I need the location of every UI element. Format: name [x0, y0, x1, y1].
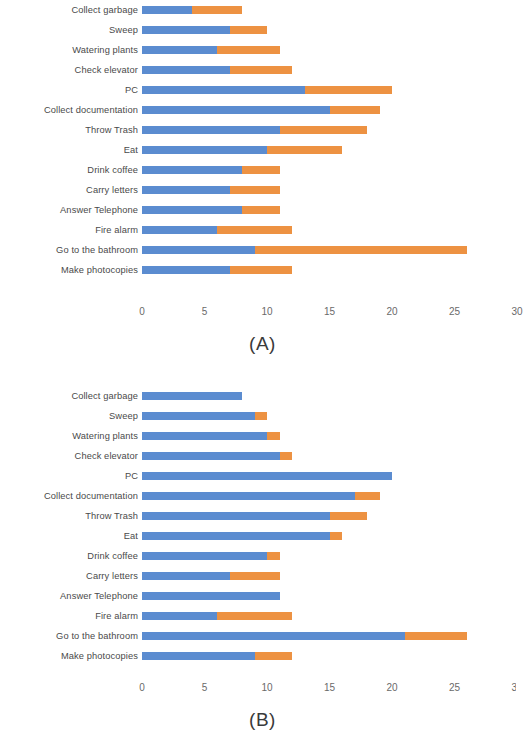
- bar-category-label: PC: [0, 80, 138, 100]
- bar-track: [142, 412, 523, 420]
- bar-segment-series1: [142, 432, 267, 440]
- x-axis-tick-label: 0: [139, 682, 145, 693]
- bar-segment-series1: [142, 592, 280, 600]
- bar-segment-series1: [142, 552, 267, 560]
- bar-segment-series2: [217, 612, 292, 620]
- bar-row: Eat: [0, 526, 523, 546]
- x-axis-tick-label: 25: [449, 682, 460, 693]
- x-axis-tick-label: 15: [324, 306, 335, 317]
- bar-track: [142, 46, 523, 54]
- bar-category-label: Go to the bathroom: [0, 626, 138, 646]
- plot-area-b: Collect garbageSweepWatering plantsCheck…: [0, 386, 523, 666]
- panel-caption-a: (A): [0, 333, 523, 355]
- bar-segment-series1: [142, 166, 242, 174]
- panel-caption-b-text: (B): [249, 709, 276, 730]
- bar-category-label: Eat: [0, 526, 138, 546]
- bar-row: Answer Telephone: [0, 200, 523, 220]
- bar-segment-series1: [142, 572, 230, 580]
- bar-category-label: Check elevator: [0, 60, 138, 80]
- bar-track: [142, 246, 523, 254]
- bar-category-label: Collect documentation: [0, 486, 138, 506]
- bar-category-label: Throw Trash: [0, 120, 138, 140]
- bar-segment-series2: [280, 452, 293, 460]
- bar-segment-series2: [192, 6, 242, 14]
- bar-row: Answer Telephone: [0, 586, 523, 606]
- bar-segment-series1: [142, 632, 405, 640]
- bar-track: [142, 492, 523, 500]
- bar-segment-series2: [255, 652, 293, 660]
- bar-segment-series2: [242, 166, 280, 174]
- bar-segment-series1: [142, 452, 280, 460]
- bar-row: Make photocopies: [0, 646, 523, 666]
- bar-row: Sweep: [0, 406, 523, 426]
- bar-track: [142, 432, 523, 440]
- bar-category-label: Answer Telephone: [0, 586, 138, 606]
- bar-segment-series2: [330, 106, 380, 114]
- x-axis-tick-label: 10: [261, 306, 272, 317]
- bar-category-label: Make photocopies: [0, 646, 138, 666]
- bar-segment-series2: [267, 146, 342, 154]
- bar-category-label: Answer Telephone: [0, 200, 138, 220]
- bar-category-label: Drink coffee: [0, 160, 138, 180]
- bar-row: Watering plants: [0, 40, 523, 60]
- bar-category-label: Collect documentation: [0, 100, 138, 120]
- bar-category-label: Check elevator: [0, 446, 138, 466]
- bar-category-label: Sweep: [0, 406, 138, 426]
- panel-caption-b: (B): [0, 709, 523, 731]
- bar-track: [142, 532, 523, 540]
- bar-segment-series2: [330, 532, 343, 540]
- bar-segment-series2: [230, 186, 280, 194]
- bar-segment-series1: [142, 652, 255, 660]
- bar-track: [142, 552, 523, 560]
- bar-segment-series2: [230, 66, 293, 74]
- bar-category-label: Eat: [0, 140, 138, 160]
- bar-row: Collect garbage: [0, 386, 523, 406]
- bar-category-label: Carry letters: [0, 566, 138, 586]
- bar-row: Go to the bathroom: [0, 626, 523, 646]
- bar-category-label: Drink coffee: [0, 546, 138, 566]
- bar-row: Check elevator: [0, 446, 523, 466]
- bar-segment-series2: [255, 412, 268, 420]
- bar-category-label: Fire alarm: [0, 606, 138, 626]
- x-axis-tick-label: 0: [139, 306, 145, 317]
- bar-row: Carry letters: [0, 566, 523, 586]
- chart-panel-a: Collect garbageSweepWatering plantsCheck…: [0, 0, 523, 376]
- bar-track: [142, 166, 523, 174]
- bar-track: [142, 652, 523, 660]
- figure-root: Collect garbageSweepWatering plantsCheck…: [0, 0, 523, 752]
- panel-caption-a-text: (A): [249, 333, 276, 354]
- bar-segment-series1: [142, 512, 330, 520]
- bar-row: Check elevator: [0, 60, 523, 80]
- bar-row: Throw Trash: [0, 506, 523, 526]
- bar-category-label: Go to the bathroom: [0, 240, 138, 260]
- bar-category-label: Watering plants: [0, 40, 138, 60]
- bar-row: PC: [0, 466, 523, 486]
- bar-segment-series1: [142, 26, 230, 34]
- bar-category-label: Throw Trash: [0, 506, 138, 526]
- bar-track: [142, 512, 523, 520]
- bar-track: [142, 632, 523, 640]
- bar-row: Eat: [0, 140, 523, 160]
- bar-category-label: Collect garbage: [0, 386, 138, 406]
- bar-category-label: Fire alarm: [0, 220, 138, 240]
- bar-segment-series2: [230, 26, 268, 34]
- bar-segment-series2: [230, 266, 293, 274]
- bar-row: Watering plants: [0, 426, 523, 446]
- x-axis-tick-label: 15: [324, 682, 335, 693]
- bar-row: Carry letters: [0, 180, 523, 200]
- bar-segment-series1: [142, 46, 217, 54]
- bar-category-label: Make photocopies: [0, 260, 138, 280]
- bar-category-label: Collect garbage: [0, 0, 138, 20]
- bar-segment-series2: [267, 432, 280, 440]
- bar-track: [142, 126, 523, 134]
- x-axis-tick-label: 10: [261, 682, 272, 693]
- bar-segment-series1: [142, 126, 280, 134]
- bar-track: [142, 66, 523, 74]
- bar-track: [142, 146, 523, 154]
- bar-track: [142, 592, 523, 600]
- bar-track: [142, 226, 523, 234]
- bar-track: [142, 206, 523, 214]
- bar-track: [142, 106, 523, 114]
- bar-segment-series2: [405, 632, 468, 640]
- bar-segment-series1: [142, 206, 242, 214]
